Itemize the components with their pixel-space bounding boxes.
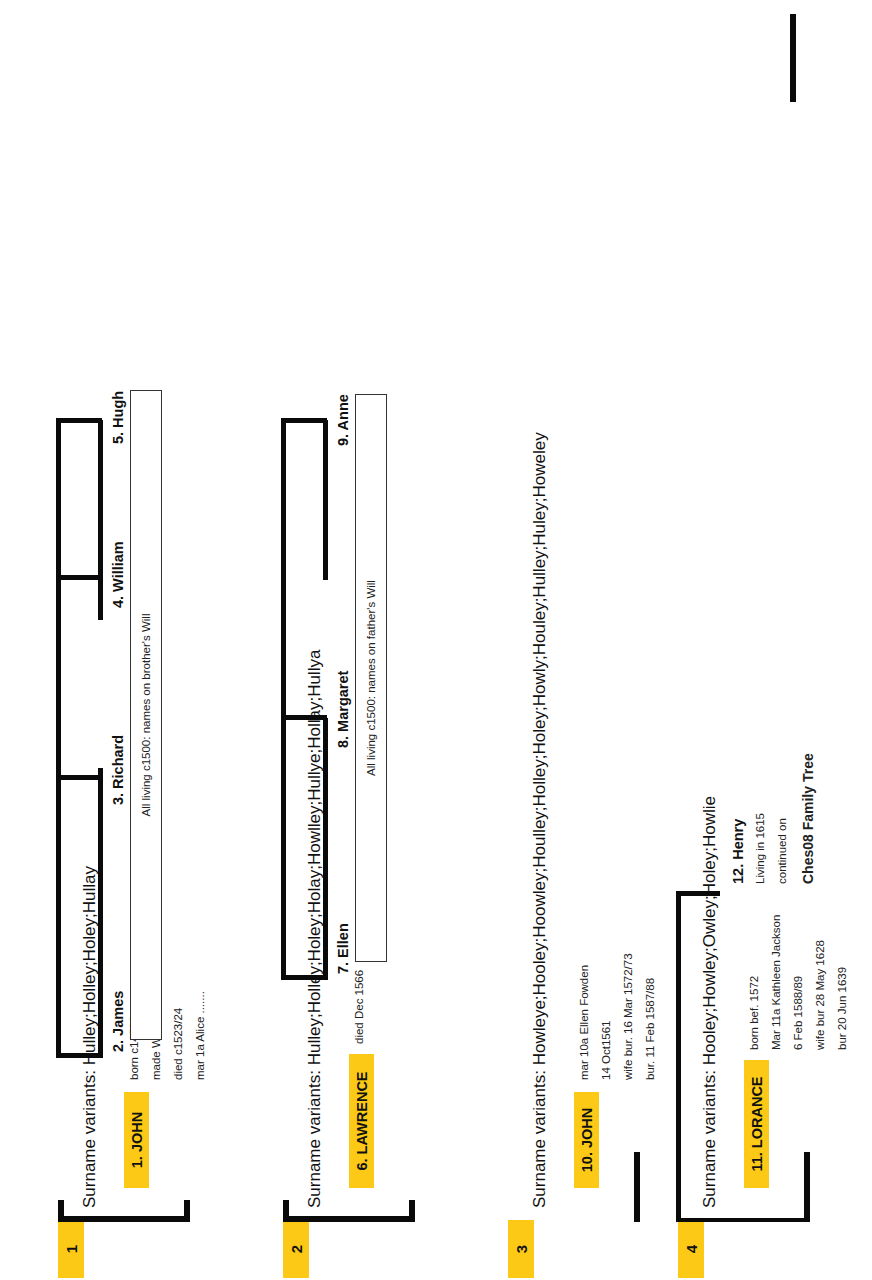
generation-row-2: 2 Surname variants: Hulley;Holley;Holey;… [225,0,455,1280]
note-box-2-text: All living c1500: names on father's Will [365,580,377,776]
person-6-detail-0: died Dec 1566 [353,970,365,1044]
generation-row-4: 4 Surname variants: Hooley;Howley;Owley;… [620,0,870,1280]
generation-index-tab-4[interactable]: 4 [678,1220,704,1278]
person-1-detail-2: died c1523/24 [172,1008,184,1080]
row2-spine-foot [409,1200,415,1222]
person-3-richard[interactable]: 3. Richard [110,735,126,805]
row4-spine-foot [804,1152,810,1222]
row2-sibling-trunk [281,420,286,980]
person-11-detail-3: wife bur 28 May 1628 [814,940,826,1050]
row1-trunk-lower-left [98,768,103,1058]
person-10-detail-0: mar 10a Ellen Fowden [578,965,590,1080]
person-1-detail-3: mar 1a Alice ....... [194,991,206,1080]
surname-variants-3: Surname variants: Howleye;Hooley;Hoowley… [530,432,550,1208]
row1-stub-hugh [56,418,102,423]
row2-stub-ellen [281,975,327,980]
person-11-detail-4: bur 20 Jun 1639 [836,967,848,1050]
row1-spine-head [58,1200,64,1222]
person-1-john[interactable]: 1. JOHN [124,1092,149,1188]
row4-stub-henry [676,891,720,896]
person-4-william[interactable]: 4. William [110,541,126,608]
row1-stub-richard [56,775,102,780]
person-12-detail-0: Living in 1615 [754,813,766,884]
person-10-john[interactable]: 10. JOHN [574,1092,599,1188]
row2-stub-margaret [281,715,327,720]
person-7-ellen[interactable]: 7. Ellen [335,923,351,974]
continuation-sheet-title: Ches08 Family Tree [800,753,816,884]
person-11-detail-1: Mar 11a Kathleen Jackson [770,915,782,1050]
rotated-chart-wrapper: 1 Surname variants: Hulley;Holley;Holey;… [0,0,872,1280]
row1-stub-william [56,575,102,580]
generation-row-1: 1 Surname variants: Hulley;Holley;Holey;… [0,0,240,1280]
person-6-lawrence[interactable]: 6. LAWRENCE [349,1054,374,1188]
person-12-henry[interactable]: 12. Henry [730,819,746,884]
person-2-james[interactable]: 2. James [110,991,126,1052]
generation-index-tab-3[interactable]: 3 [508,1220,534,1278]
generation-index-tab-2[interactable]: 2 [283,1220,309,1278]
note-box-1: All living c1500: names on brother's Wil… [130,390,162,1040]
generation-row-3: 3 Surname variants: Howleye;Hooley;Hoowl… [450,0,625,1280]
row2-spine [283,1216,415,1222]
family-tree-sheet: 1 Surname variants: Hulley;Holley;Holey;… [0,0,872,1280]
row1-stub-james [56,1053,102,1058]
person-11-detail-2: 6 Feb 1588/89 [792,976,804,1050]
person-5-hugh[interactable]: 5. Hugh [110,391,126,444]
surname-variants-1: Surname variants: Hulley;Holley;Holey;Hu… [80,866,100,1208]
row4-child-trunk [676,892,681,1222]
person-9-anne[interactable]: 9. Anne [335,394,351,446]
bottom-trailing-rule [790,14,796,102]
person-10-detail-1: 14 Oct1561 [600,1021,612,1080]
row2-stub-anne [281,418,327,423]
row1-spine [58,1216,190,1222]
row1-spine-foot [184,1200,190,1222]
person-11-detail-0: born bef. 1572 [748,976,760,1050]
note-box-2: All living c1500: names on father's Will [355,394,387,962]
person-8-margaret[interactable]: 8. Margaret [335,671,351,748]
row2-spine-head [283,1200,289,1222]
row1-trunk-lower-right [98,420,103,620]
row1-sibling-trunk [56,418,61,1058]
generation-index-tab-1[interactable]: 1 [58,1220,84,1278]
person-11-lorance[interactable]: 11. LORANCE [744,1060,769,1188]
row2-trunk-lower-right [323,420,328,580]
row4-spine [678,1218,810,1222]
surname-variants-4: Surname variants: Hooley;Howley;Owley;Ho… [700,796,720,1208]
note-box-1-text: All living c1500: names on brother's Wil… [140,614,152,817]
person-12-detail-1: continued on [776,818,788,884]
surname-variants-2: Surname variants: Hulley;Holley;Holey;Ho… [305,650,325,1208]
row2-trunk-lower-left [323,718,328,980]
